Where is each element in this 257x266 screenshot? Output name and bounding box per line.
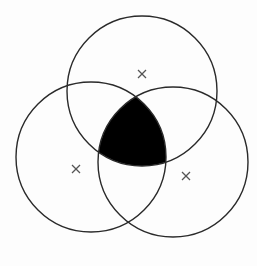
center-marker-top-icon (138, 70, 146, 78)
center-marker-right-icon (182, 172, 190, 180)
triple-intersection-region (98, 87, 248, 237)
venn-diagram (0, 0, 257, 266)
center-marker-left-icon (72, 165, 80, 173)
